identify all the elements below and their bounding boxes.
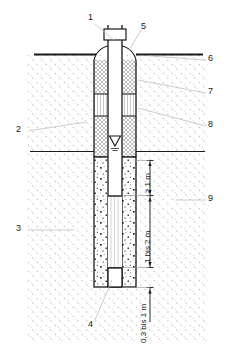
callout-label-6: 6 [208, 54, 213, 63]
callout-label-9: 9 [208, 194, 213, 203]
callout-label-5: 5 [141, 22, 146, 31]
well-screen-section [108, 196, 122, 268]
dimension-label-sump: 0,3 bis 1 m [140, 304, 148, 343]
dimension-label-screen-length: 1 bis 2 m [144, 231, 152, 263]
well-cross-section-drawing [0, 0, 235, 351]
callout-label-7: 7 [208, 87, 213, 96]
callout-label-1: 1 [88, 13, 93, 22]
callout-label-2: 2 [16, 125, 21, 134]
callout-label-3: 3 [16, 224, 21, 233]
diagram-canvas: 1 5 6 7 8 9 2 3 4 ≥ 1 m 1 bis 2 m 0,3 bi… [0, 0, 235, 351]
dimension-label-above-screen: ≥ 1 m [144, 173, 152, 193]
callout-label-8: 8 [208, 120, 213, 129]
callout-label-4: 4 [88, 320, 93, 329]
